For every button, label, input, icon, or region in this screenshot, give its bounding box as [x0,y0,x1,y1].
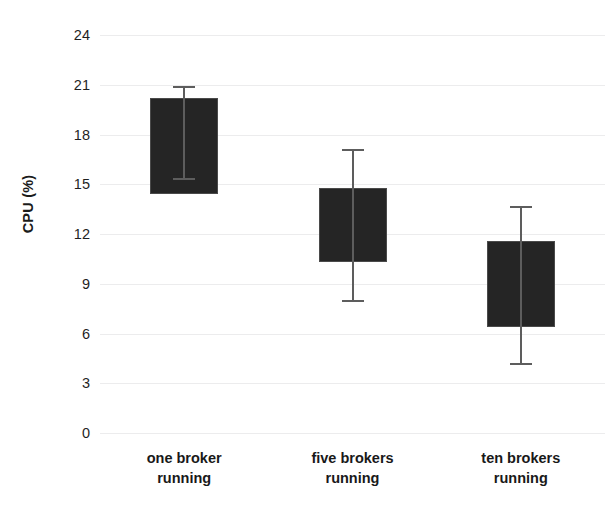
y-axis-tick-label: 12 [54,227,90,242]
gridline [100,334,605,335]
y-axis-tick-label: 9 [54,277,90,292]
errorbar-line [520,206,522,364]
errorbar-line [352,149,354,300]
plot-area [100,35,605,433]
gridline [100,383,605,384]
gridline [100,433,605,434]
gridline [100,35,605,36]
cpu-bar-chart: CPU (%) 03691215182124 one broker runnin… [0,0,613,522]
y-axis-tick-label-group: 03691215182124 [52,35,90,433]
y-axis-tick-label: 24 [54,28,90,43]
errorbar-cap-upper [342,149,364,151]
x-axis-tick-label: five brokers running [273,449,433,488]
errorbar-cap-lower [510,363,532,365]
errorbar-cap-upper [173,86,195,88]
errorbar-line [183,86,185,177]
y-axis-tick-label: 15 [54,177,90,192]
x-axis-tick-label: ten brokers running [441,449,601,488]
y-axis-tick-label: 18 [54,128,90,143]
y-axis-tick-label: 21 [54,78,90,93]
errorbar-cap-lower [342,300,364,302]
errorbar-cap-lower [173,178,195,180]
x-axis-tick-label: one broker running [104,449,264,488]
y-axis-tick-label: 0 [54,426,90,441]
y-axis-tick-label: 6 [54,327,90,342]
y-axis-tick-label: 3 [54,376,90,391]
y-axis-title: CPU (%) [20,154,36,254]
errorbar-cap-upper [510,206,532,208]
